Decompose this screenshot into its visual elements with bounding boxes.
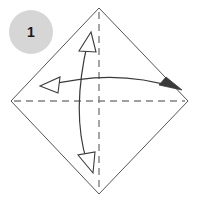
step-badge-label: 1	[27, 24, 35, 40]
origami-step-diagram: 1	[0, 0, 197, 202]
step-number-badge: 1	[9, 10, 53, 54]
figure-canvas: 1	[0, 0, 197, 202]
